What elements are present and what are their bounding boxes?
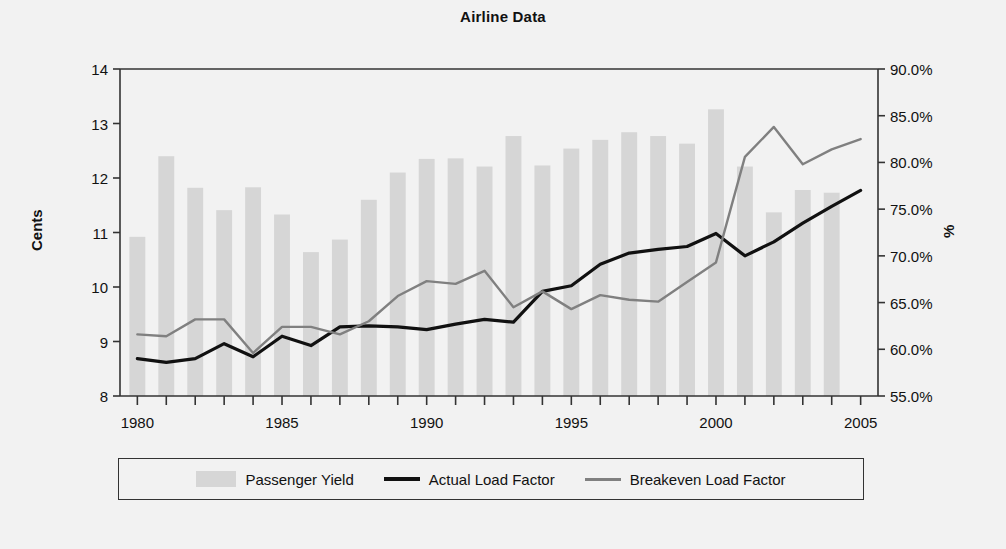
y-tick-label-left-8: 8 [64, 388, 108, 405]
x-tick-label-2000: 2000 [686, 414, 746, 431]
x-tick-label-1995: 1995 [541, 414, 601, 431]
y-tick-label-right-60: 60.0% [890, 341, 960, 358]
bar-1988 [361, 200, 377, 396]
airline-data-chart: Airline Data Cents % 89101112131455.0%60… [0, 0, 1006, 549]
bar-1997 [621, 132, 637, 396]
x-tick-label-2005: 2005 [831, 414, 891, 431]
bar-1991 [448, 158, 464, 396]
bar-1980 [129, 237, 145, 396]
bar-series-passenger-yield [129, 109, 839, 396]
y-tick-label-left-11: 11 [64, 224, 108, 241]
bar-1989 [390, 173, 406, 396]
bar-1984 [245, 187, 261, 396]
y-tick-label-right-90: 90.0% [890, 61, 960, 78]
y-tick-label-right-75: 75.0% [890, 201, 960, 218]
bar-1982 [187, 188, 203, 396]
bar-1986 [303, 252, 319, 396]
legend-label: Actual Load Factor [429, 471, 555, 488]
bar-1999 [679, 144, 695, 396]
y-tick-label-left-10: 10 [64, 279, 108, 296]
x-tick-label-1980: 1980 [107, 414, 167, 431]
bar-1994 [534, 165, 550, 396]
bar-1987 [332, 240, 348, 396]
x-tick-label-1990: 1990 [397, 414, 457, 431]
bar-1995 [563, 149, 579, 396]
legend-item-breakeven-load-factor[interactable]: Breakeven Load Factor [585, 471, 786, 488]
y-tick-label-left-12: 12 [64, 170, 108, 187]
y-tick-label-right-55: 55.0% [890, 388, 960, 405]
bar-1993 [506, 136, 522, 396]
y-tick-label-right-70: 70.0% [890, 247, 960, 264]
chart-legend: Passenger Yield Actual Load Factor Break… [118, 458, 864, 500]
bar-2004 [824, 193, 840, 396]
bar-1983 [216, 210, 232, 396]
bar-2001 [737, 167, 753, 396]
y-tick-label-right-80: 80.0% [890, 154, 960, 171]
bar-1985 [274, 215, 290, 396]
y-tick-label-right-65: 65.0% [890, 294, 960, 311]
bar-swatch-icon [196, 471, 236, 487]
y-tick-label-right-85: 85.0% [890, 107, 960, 124]
bar-1981 [158, 156, 174, 396]
line-swatch-black-icon [384, 477, 420, 481]
bar-1992 [477, 167, 493, 396]
legend-label: Passenger Yield [245, 471, 353, 488]
y-tick-label-left-14: 14 [64, 61, 108, 78]
bar-1990 [419, 159, 435, 396]
x-tick-label-1985: 1985 [252, 414, 312, 431]
bar-2000 [708, 109, 724, 396]
legend-item-actual-load-factor[interactable]: Actual Load Factor [384, 471, 555, 488]
y-tick-label-left-9: 9 [64, 333, 108, 350]
line-swatch-gray-icon [585, 478, 621, 481]
legend-item-passenger-yield[interactable]: Passenger Yield [196, 471, 353, 488]
y-tick-label-left-13: 13 [64, 115, 108, 132]
legend-label: Breakeven Load Factor [630, 471, 786, 488]
bar-1998 [650, 136, 666, 396]
